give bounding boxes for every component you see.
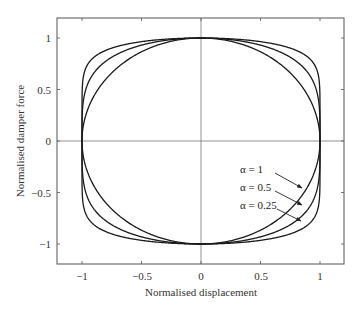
y-tick-label: 0.5 (37, 84, 51, 96)
y-axis-label: Normalised damper force (14, 85, 26, 198)
arrow-alpha-1 (275, 173, 302, 188)
chart-canvas: 1 0.5 0 −0.5 −1 −1 −0.5 0 0.5 1 Normalis… (0, 0, 362, 312)
legend-label-alpha-1: α = 1 (240, 163, 263, 175)
x-tick-label: 0 (198, 270, 204, 282)
y-tick-label: −0.5 (31, 187, 51, 199)
legend-label-alpha-0.25: α = 0.25 (240, 199, 277, 211)
y-tick-label: 0 (46, 135, 52, 147)
x-axis-label: Normalised displacement (145, 286, 257, 298)
x-tick-label: 0.5 (254, 270, 268, 282)
x-tick-label: 1 (317, 270, 323, 282)
x-tick-label: −1 (76, 270, 88, 282)
arrow-alpha-0.5 (275, 191, 302, 205)
x-tick-label: −0.5 (132, 270, 152, 282)
legend-label-alpha-0.5: α = 0.5 (240, 181, 272, 193)
y-tick-label: −1 (39, 238, 51, 250)
y-tick-label: 1 (46, 32, 52, 44)
